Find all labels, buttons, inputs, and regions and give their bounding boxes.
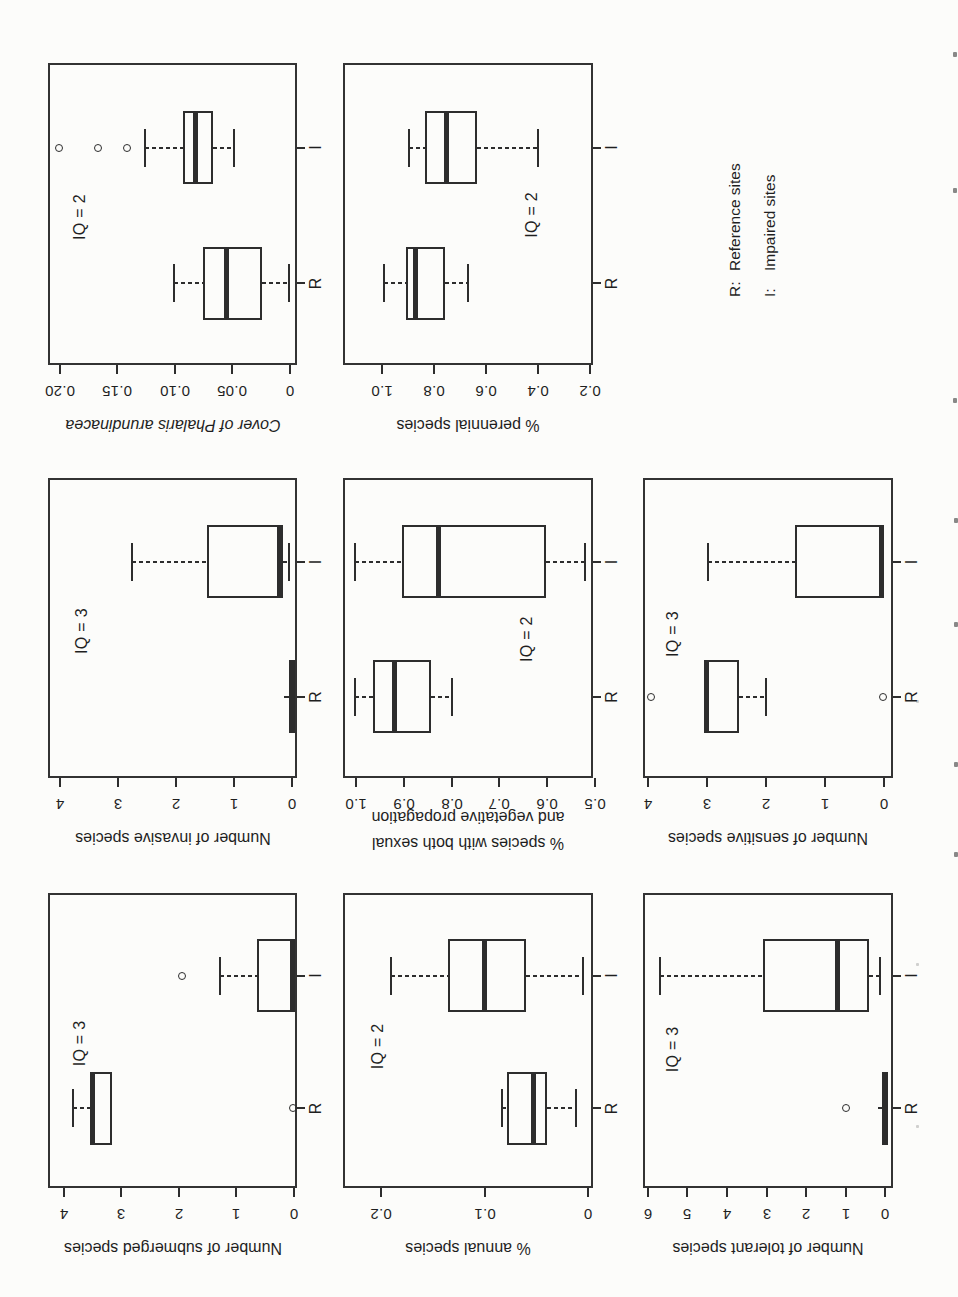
category-label-r: R <box>603 278 621 290</box>
y-tick-label: 4 <box>643 796 652 813</box>
category-label-r: R <box>307 691 325 703</box>
caption-fragment-mark <box>916 1125 919 1128</box>
y-tick-label: 4 <box>723 1206 732 1223</box>
y-tick-label: 0.5 <box>584 796 605 813</box>
y-tick <box>594 778 596 787</box>
whisker-cap <box>144 129 146 167</box>
whisker-line <box>213 147 234 149</box>
y-tick <box>766 1188 768 1197</box>
y-tick <box>884 1188 886 1197</box>
y-axis-title-text: Number of submerged species <box>64 1240 282 1257</box>
whisker-line <box>355 561 402 563</box>
y-tick-label: 0 <box>879 796 888 813</box>
category-label-i: I <box>603 145 621 149</box>
caption-fragment-mark <box>954 852 958 857</box>
whisker-line <box>409 147 425 149</box>
y-tick-label: 1.0 <box>371 383 392 400</box>
whisker-cap <box>383 264 385 302</box>
x-category-tick <box>297 975 305 977</box>
whisker-line <box>132 561 207 563</box>
whisker-cap <box>501 1089 503 1127</box>
whisker-cap <box>879 957 881 995</box>
caption-fragment-mark <box>954 622 958 627</box>
whisker-cap <box>354 678 356 716</box>
box <box>406 247 445 320</box>
y-tick <box>546 778 548 787</box>
whisker-cap <box>707 543 709 581</box>
y-axis-title-line: % species with both sexual <box>371 830 564 856</box>
y-tick-label: 0 <box>288 796 297 813</box>
y-tick-label: 0 <box>881 1206 890 1223</box>
panel-number-of-sensitive-species: 43210Number of sensitive speciesIQ = 3RI <box>643 478 893 778</box>
y-tick-label: 1 <box>842 1206 851 1223</box>
y-axis-title-text: Phalaris arundinacea <box>65 417 215 434</box>
whisker-line <box>431 696 452 698</box>
iq-value-label: IQ = 3 <box>73 608 91 654</box>
box <box>92 1072 112 1145</box>
panel-percent-perennial-species: 1.00.80.60.40.2% perennial speciesIQ = 2… <box>343 63 593 365</box>
y-axis-title-text: and vegetative propagation <box>371 809 564 826</box>
y-axis-title: Cover of Phalaris arundinacea <box>65 412 280 438</box>
median-line <box>289 661 295 734</box>
legend-label-reference-sites: Reference sites <box>726 163 743 271</box>
outlier-circle <box>55 144 63 152</box>
iq-value-label: IQ = 2 <box>71 194 89 240</box>
whisker-line <box>384 282 406 284</box>
y-tick-label: 2 <box>761 796 770 813</box>
y-tick-label: 0.10 <box>160 383 190 400</box>
whisker-cap <box>288 264 290 302</box>
legend-key-i: I: <box>761 271 779 297</box>
median-line <box>436 526 441 599</box>
outlier-circle <box>178 972 186 980</box>
y-tick-label: 1 <box>230 796 239 813</box>
y-tick <box>289 365 291 374</box>
y-tick-label: 4 <box>56 796 65 813</box>
panel-number-of-invasive-species: 43210Number of invasive speciesIQ = 3RI <box>48 478 297 778</box>
box <box>203 247 263 320</box>
median-line <box>882 1072 888 1145</box>
y-axis-title: Number of tolerant species <box>672 1235 863 1261</box>
panel-cover-of-phalaris-arundinacea: 0.200.150.100.050Cover of Phalaris arund… <box>48 63 297 365</box>
y-tick-label: 4 <box>59 1206 68 1223</box>
y-tick-label: 0.4 <box>527 383 548 400</box>
median-line <box>392 661 397 734</box>
y-axis-title-text: % species with both sexual <box>372 835 564 852</box>
x-category-tick <box>593 282 601 284</box>
box <box>707 661 739 734</box>
x-category-tick <box>893 696 901 698</box>
median-line <box>413 247 418 320</box>
x-category-tick <box>893 1107 901 1109</box>
iq-value-label: IQ = 3 <box>664 1026 682 1072</box>
boxplot-figure: 43210Number of submerged speciesIQ = 3RI… <box>0 0 958 1297</box>
y-tick <box>765 778 767 787</box>
whisker-cap <box>765 678 767 716</box>
median-line <box>444 111 449 184</box>
y-tick <box>381 365 383 374</box>
median-line <box>835 939 840 1012</box>
y-tick-label: 1 <box>820 796 829 813</box>
median-line <box>224 247 229 320</box>
panel-frame <box>343 63 593 365</box>
y-axis-title-line: Number of sensitive species <box>668 825 868 851</box>
x-category-tick <box>297 1107 305 1109</box>
category-label-r: R <box>307 278 325 290</box>
whisker-line <box>526 975 583 977</box>
whisker-line <box>391 975 448 977</box>
y-tick <box>484 1188 486 1197</box>
y-axis-title: % perennial species <box>396 412 539 438</box>
box <box>207 526 283 599</box>
legend-key-r: R: <box>726 271 744 297</box>
y-tick <box>291 778 293 787</box>
y-axis-title-text: % perennial species <box>396 417 539 434</box>
whisker-line <box>477 147 538 149</box>
whisker-line <box>262 282 288 284</box>
whisker-line <box>355 696 372 698</box>
box <box>763 939 869 1012</box>
category-label-i: I <box>603 560 621 564</box>
y-tick <box>485 365 487 374</box>
y-tick <box>117 778 119 787</box>
whisker-cap <box>659 957 661 995</box>
x-category-tick <box>297 561 305 563</box>
y-tick <box>647 1188 649 1197</box>
whisker-cap <box>288 543 290 581</box>
